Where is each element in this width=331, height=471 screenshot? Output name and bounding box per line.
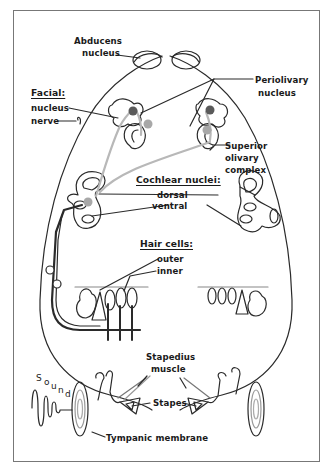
label-ventral: ventral — [152, 201, 187, 211]
stapes-right — [188, 398, 208, 414]
label-periolivary: Periolivary — [255, 75, 308, 85]
label-facial-nucleus: nucleus — [31, 103, 69, 113]
stapes-left — [120, 398, 140, 414]
label-sound-s: S — [36, 373, 42, 383]
label-facial-nerve: nerve — [31, 116, 59, 126]
label-outer: outer — [157, 254, 184, 264]
label-sound-d: d — [65, 389, 71, 399]
label-dorsal: dorsal — [157, 190, 188, 200]
facial-motor-neuron-left — [129, 107, 138, 116]
olivary-neuron-left — [144, 120, 153, 129]
label-periolivary-nucleus: nucleus — [258, 88, 296, 98]
inner-hair-cell-1 — [105, 290, 115, 310]
spiral-ganglion-1 — [46, 266, 54, 274]
label-cochlear-header: Cochlear nuclei: — [136, 175, 221, 185]
cochlear-neuron-left — [84, 198, 93, 207]
label-abducens: Abducens — [74, 36, 122, 46]
label-superior: Superior — [225, 141, 267, 151]
label-tympanic-membrane: Tympanic membrane — [106, 433, 208, 443]
olivary-neuron-right — [203, 126, 212, 135]
label-sound-o: o — [44, 377, 50, 387]
ossicles-left — [96, 371, 120, 403]
label-facial-header: Facial: — [31, 88, 65, 98]
label-hair-cells-header: Hair cells: — [140, 239, 193, 249]
label-olivary: olivary — [225, 153, 259, 163]
label-stapedius: Stapedius — [146, 352, 195, 362]
gray-pathway-ipsilateral — [96, 108, 134, 196]
label-inner: inner — [157, 266, 183, 276]
label-muscle: muscle — [151, 364, 186, 374]
label-sound-u: u — [51, 381, 57, 391]
label-complex: complex — [225, 165, 266, 175]
label-sound-n: n — [58, 385, 64, 395]
stapedius-muscle-right — [184, 378, 210, 398]
label-stapes: Stapes — [153, 398, 187, 408]
facial-motor-neuron-right — [206, 106, 215, 115]
label-abducens-nucleus: nucleus — [82, 48, 120, 58]
